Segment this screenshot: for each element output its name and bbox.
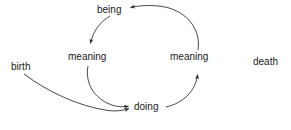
- edge-doing-to-meaning-right: [166, 75, 198, 108]
- node-being: being: [96, 4, 122, 15]
- edge-meaning-right-to-being: [131, 6, 199, 50]
- node-doing: doing: [133, 101, 159, 112]
- node-birth: birth: [10, 61, 31, 72]
- diagram-canvas: being meaning meaning doing birth death: [0, 0, 291, 130]
- node-meaning-right: meaning: [169, 51, 209, 62]
- edge-meaning-left-to-doing: [87, 66, 128, 107]
- edge-being-to-meaning-left: [91, 16, 111, 44]
- node-meaning-left: meaning: [67, 51, 107, 62]
- node-death: death: [252, 56, 279, 67]
